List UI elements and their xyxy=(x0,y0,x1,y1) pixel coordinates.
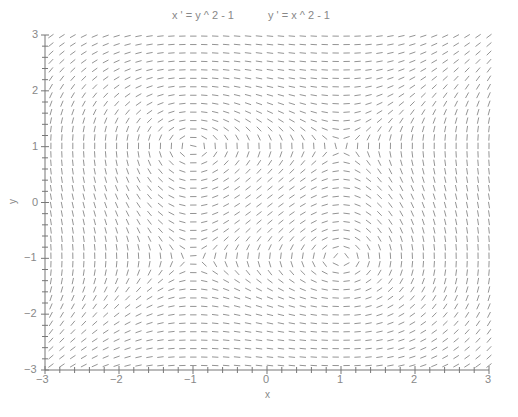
y-tick-label: 0 xyxy=(32,196,38,208)
y-tick-label: 2 xyxy=(32,84,38,96)
y-tick-label: −1 xyxy=(24,251,37,263)
x-axis-label: x xyxy=(265,389,270,400)
y-tick-label: 1 xyxy=(32,140,38,152)
y-tick-label: −3 xyxy=(24,363,37,375)
y-tick-label: −2 xyxy=(24,307,37,319)
y-axis-label: y xyxy=(7,199,18,204)
title-x-equation: x ' = y ^ 2 - 1 xyxy=(172,9,234,21)
axes xyxy=(41,35,489,374)
x-tick-label: 2 xyxy=(411,373,417,385)
title-y-equation: y ' = x ^ 2 - 1 xyxy=(268,9,330,21)
x-tick-label: −3 xyxy=(36,373,49,385)
x-tick-label: −1 xyxy=(184,373,197,385)
x-tick-label: 1 xyxy=(337,373,343,385)
x-tick-label: 3 xyxy=(485,373,491,385)
x-tick-label: 0 xyxy=(263,373,269,385)
direction-field-segments xyxy=(48,34,491,367)
y-tick-label: 3 xyxy=(32,28,38,40)
x-tick-label: −2 xyxy=(110,373,123,385)
direction-field-chart xyxy=(0,0,518,417)
